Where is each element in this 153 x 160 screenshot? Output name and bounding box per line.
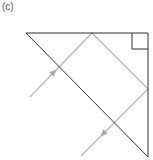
prism-triangle	[26, 33, 148, 157]
diagram-canvas: (c)	[0, 0, 153, 160]
light-ray-path	[30, 33, 148, 156]
right-angle-marker-icon	[132, 33, 148, 49]
prism-diagram	[0, 0, 153, 160]
